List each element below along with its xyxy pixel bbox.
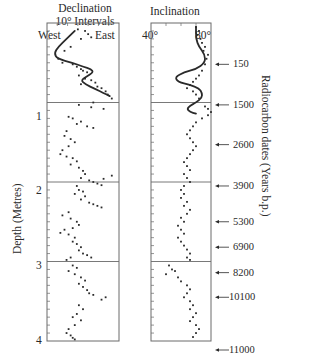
radiocarbon-arrows [215,63,229,352]
radiocarbon-date-8200: 8200 [233,268,254,279]
radiocarbon-date-11000: 11000 [229,345,255,355]
radiocarbon-date-10100: 10100 [229,292,255,303]
radiocarbon-date-1500: 1500 [233,100,254,111]
radiocarbon-date-2600: 2600 [233,140,254,151]
radiocarbon-date-150: 150 [233,59,249,70]
model-curve-1 [176,27,205,114]
data-points [57,26,211,340]
radiocarbon-date-6900: 6900 [233,242,254,253]
radiocarbon-date-5300: 5300 [233,217,254,228]
radiocarbon-date-3900: 3900 [233,181,254,192]
model-curves [55,27,205,114]
axis-ticks [47,23,196,333]
